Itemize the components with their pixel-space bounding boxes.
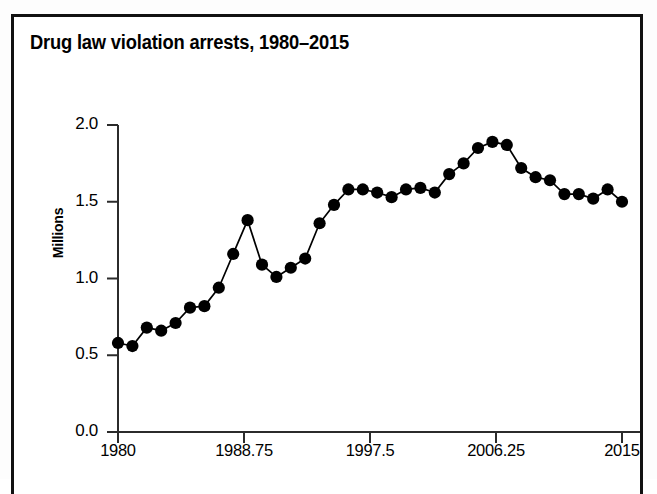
y-axis-tick-label: 1.0 — [54, 268, 98, 288]
data-point-marker — [155, 325, 167, 337]
data-point-marker — [371, 186, 383, 198]
data-point-marker — [328, 199, 340, 211]
data-point-marker — [342, 183, 354, 195]
data-point-marker — [530, 171, 542, 183]
data-point-marker — [616, 196, 628, 208]
x-axis-tick-label: 2015 — [577, 441, 657, 460]
y-axis-tick-label: 2.0 — [54, 114, 98, 134]
data-point-marker — [472, 142, 484, 154]
data-point-marker — [400, 183, 412, 195]
data-point-marker — [285, 262, 297, 274]
x-axis-tick-label: 1988.75 — [199, 441, 289, 460]
data-point-marker — [227, 248, 239, 260]
data-point-marker — [544, 174, 556, 186]
data-point-marker — [198, 300, 210, 312]
data-point-marker — [573, 188, 585, 200]
data-point-marker — [386, 191, 398, 203]
data-point-marker — [558, 188, 570, 200]
x-axis-tick-label: 1997.5 — [325, 441, 415, 460]
data-point-marker — [170, 317, 182, 329]
data-point-marker — [429, 186, 441, 198]
data-point-marker — [242, 214, 254, 226]
y-axis-tick-label: 0.5 — [54, 344, 98, 364]
x-axis-tick-label: 1980 — [73, 441, 163, 460]
y-axis-tick-label: 1.5 — [54, 191, 98, 211]
data-point-marker — [314, 217, 326, 229]
data-point-marker — [443, 168, 455, 180]
data-point-marker — [486, 136, 498, 148]
data-point-marker — [126, 340, 138, 352]
data-point-marker — [270, 271, 282, 283]
data-point-marker — [587, 193, 599, 205]
data-point-marker — [213, 282, 225, 294]
y-axis-tick-label: 0.0 — [54, 421, 98, 441]
data-point-marker — [602, 183, 614, 195]
data-point-marker — [515, 162, 527, 174]
data-point-marker — [299, 252, 311, 264]
data-point-marker — [256, 259, 268, 271]
series-line — [118, 142, 622, 346]
data-point-marker — [414, 182, 426, 194]
data-point-marker — [184, 302, 196, 314]
data-point-marker — [141, 322, 153, 334]
data-point-marker — [357, 183, 369, 195]
data-point-marker — [112, 337, 124, 349]
x-axis-tick-label: 2006.25 — [451, 441, 541, 460]
data-point-marker — [501, 139, 513, 151]
data-point-marker — [458, 157, 470, 169]
